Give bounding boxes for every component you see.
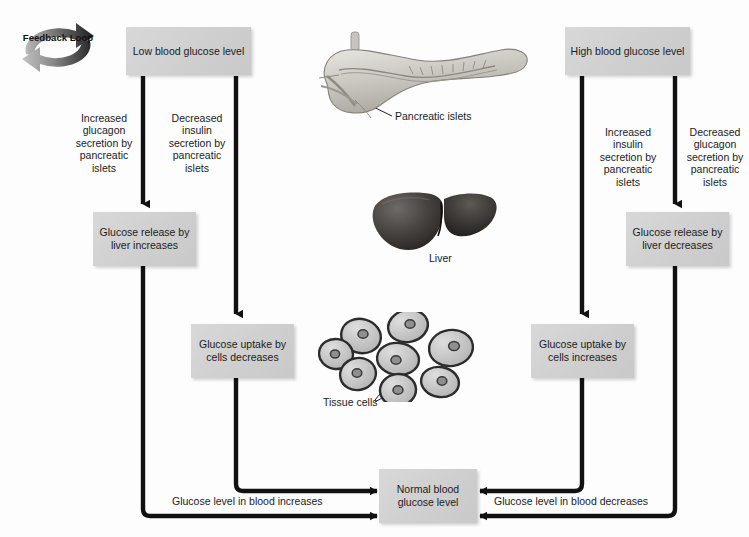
box-glucose-uptake-decreases: Glucose uptake by cells decreases <box>191 324 294 378</box>
box-glucose-uptake-increases-text: Glucose uptake by cells increases <box>535 338 630 363</box>
label-decreased-insulin: Decreased insulin secretion by pancreati… <box>165 112 229 174</box>
box-low-blood-glucose: Low blood glucose level <box>126 27 251 75</box>
box-high-blood-glucose: High blood glucose level <box>565 27 690 75</box>
feedback-loop-badge: Feedback Loop <box>6 14 110 80</box>
diagram-canvas: Feedback Loop Low blood glucose level Hi… <box>0 0 749 537</box>
label-glucose-level-increases: Glucose level in blood increases <box>172 495 382 507</box>
box-glucose-release-decreases-text: Glucose release by liver decreases <box>630 226 725 251</box>
box-glucose-release-increases-text: Glucose release by liver increases <box>97 226 192 251</box>
liver-illustration <box>368 188 500 258</box>
box-high-blood-glucose-text: High blood glucose level <box>571 45 685 58</box>
tissue-cells-illustration <box>318 312 518 402</box>
label-glucose-level-decreases: Glucose level in blood decreases <box>494 495 709 507</box>
box-glucose-release-decreases: Glucose release by liver decreases <box>626 212 729 266</box>
box-glucose-uptake-decreases-text: Glucose uptake by cells decreases <box>195 338 290 363</box>
box-glucose-uptake-increases: Glucose uptake by cells increases <box>531 324 634 378</box>
liver-label: Liver <box>429 252 452 264</box>
tissue-cells-label: Tissue cells <box>323 396 377 408</box>
pancreas-label: Pancreatic islets <box>395 110 471 122</box>
label-increased-insulin: Increased insulin secretion by pancreati… <box>596 126 660 188</box>
box-normal-blood-glucose: Normal blood glucose level <box>379 469 477 523</box>
label-decreased-glucagon: Decreased glucagon secretion by pancreat… <box>683 126 747 188</box>
box-normal-blood-glucose-text: Normal blood glucose level <box>383 483 473 508</box>
feedback-loop-icon <box>6 14 110 80</box>
label-increased-glucagon: Increased glucagon secretion by pancreat… <box>72 112 136 174</box>
feedback-loop-label: Feedback Loop <box>6 33 110 44</box>
pancreas-illustration <box>305 26 535 121</box>
box-glucose-release-increases: Glucose release by liver increases <box>93 212 196 266</box>
box-low-blood-glucose-text: Low blood glucose level <box>133 45 245 58</box>
